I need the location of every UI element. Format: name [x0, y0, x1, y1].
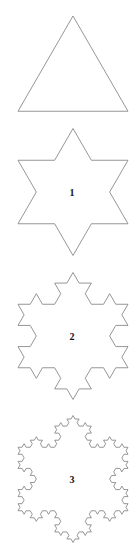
- figure-level-1: 1: [18, 128, 128, 255]
- level-label: 3: [70, 474, 75, 485]
- figure-level-0: [18, 16, 128, 111]
- koch-snowflake-diagram: 1 2 3: [0, 0, 140, 559]
- figure-level-3: 3: [18, 415, 128, 542]
- figure-level-2: 2: [18, 272, 128, 399]
- level-label: 1: [70, 187, 75, 198]
- koch-curve-level-0: [18, 16, 128, 111]
- level-label: 2: [70, 331, 75, 342]
